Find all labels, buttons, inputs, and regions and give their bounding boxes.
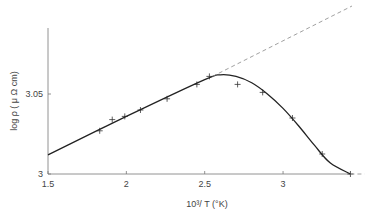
x-axis-label: 10³/ T (°K) [186, 199, 227, 209]
x-tick-label: 3 [281, 179, 286, 189]
x-tick-label: 1.5 [42, 179, 55, 189]
marks [48, 6, 365, 177]
data-point [235, 81, 241, 87]
extrapolation-line [213, 6, 352, 76]
x-tick-label: 2.5 [198, 179, 211, 189]
x-tick-label: 2 [124, 179, 129, 189]
chart: 1.522.5333.05 10³/ T (°K) log ρ ( μ Ω cm… [0, 0, 374, 215]
axes: 1.522.5333.05 [25, 28, 350, 189]
y-tick-label: 3.05 [25, 89, 43, 99]
fit-curve [48, 75, 350, 174]
y-tick-label: 3 [38, 169, 43, 179]
y-axis-label: log ρ ( μ Ω cm) [9, 71, 19, 131]
